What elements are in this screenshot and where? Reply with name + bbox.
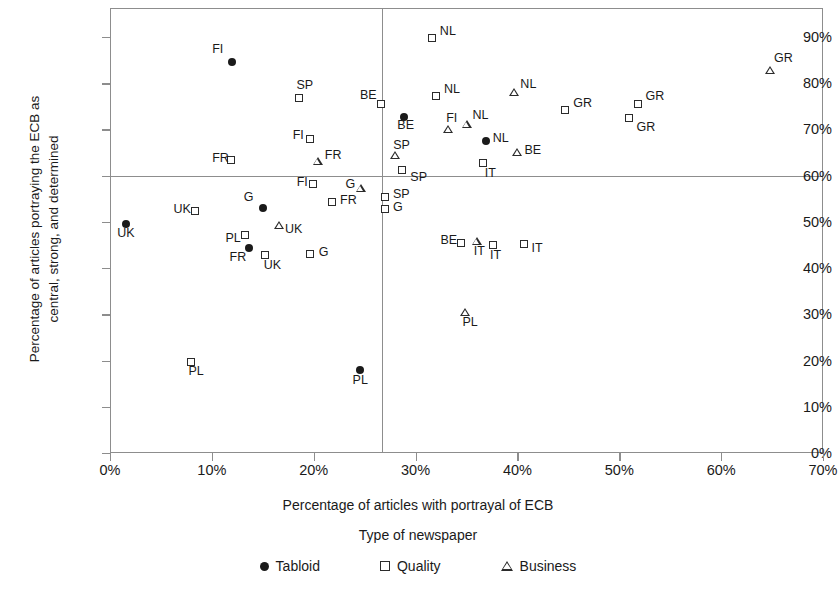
data-point-label: GR bbox=[636, 121, 655, 134]
open-square-marker bbox=[309, 180, 317, 188]
data-point-label: NL bbox=[493, 132, 509, 145]
y-tick-mark bbox=[102, 222, 110, 223]
data-point-label: PL bbox=[353, 374, 368, 387]
open-triangle-marker bbox=[509, 88, 519, 96]
data-point bbox=[310, 139, 314, 143]
y-tick-mark bbox=[102, 361, 110, 362]
data-point bbox=[514, 92, 519, 96]
open-triangle-marker bbox=[512, 148, 522, 156]
open-square-marker bbox=[432, 92, 440, 100]
open-square-marker bbox=[457, 239, 465, 247]
y-tick-label: 70% bbox=[803, 121, 832, 137]
filled-circle-marker bbox=[259, 204, 267, 212]
data-point-label: SP bbox=[393, 139, 410, 152]
data-point-label: G bbox=[346, 178, 356, 191]
data-point bbox=[467, 124, 472, 128]
x-tick-label: 60% bbox=[707, 462, 736, 478]
legend-item-business[interactable]: Business bbox=[501, 558, 577, 574]
y-axis-title: Percentage of articles portraying the EC… bbox=[25, 9, 63, 449]
open-square-marker bbox=[306, 135, 314, 143]
open-square-marker bbox=[520, 240, 528, 248]
open-square-icon bbox=[380, 561, 390, 571]
y-tick-mark bbox=[102, 83, 110, 84]
x-tick-mark bbox=[517, 453, 518, 461]
data-point-label: FI bbox=[297, 176, 308, 189]
legend-item-label: Business bbox=[520, 558, 577, 574]
plot-area: FIBENLGUKFRPLNLSPBENLGRGRGRFIFRITSPFISPG… bbox=[110, 8, 823, 453]
data-point bbox=[770, 71, 775, 75]
x-tick-label: 50% bbox=[605, 462, 634, 478]
legend-item-label: Quality bbox=[397, 558, 441, 574]
data-point-label: BE bbox=[440, 234, 457, 247]
data-point bbox=[249, 248, 253, 252]
open-triangle-marker bbox=[356, 184, 366, 192]
data-point bbox=[395, 156, 400, 160]
data-point-label: BE bbox=[360, 89, 377, 102]
data-point bbox=[310, 254, 314, 258]
open-square-marker bbox=[328, 198, 336, 206]
data-point bbox=[448, 129, 453, 133]
y-tick-mark bbox=[102, 407, 110, 408]
legend-item-quality[interactable]: Quality bbox=[380, 558, 441, 574]
y-tick-label: 10% bbox=[803, 399, 832, 415]
data-point-label: IT bbox=[485, 167, 496, 180]
x-tick-mark bbox=[110, 453, 111, 461]
data-point-label: UK bbox=[285, 223, 302, 236]
y-tick-mark bbox=[102, 37, 110, 38]
data-point-label: IT bbox=[490, 249, 501, 262]
filled-circle-marker bbox=[228, 58, 236, 66]
data-point bbox=[313, 184, 317, 188]
data-point-label: FI bbox=[446, 112, 457, 125]
x-tick-label: 0% bbox=[100, 462, 121, 478]
data-point-label: NL bbox=[473, 109, 489, 122]
x-tick-mark bbox=[619, 453, 620, 461]
data-point bbox=[195, 211, 199, 215]
y-tick-label: 60% bbox=[803, 168, 832, 184]
legend: TabloidQualityBusiness bbox=[0, 558, 836, 574]
data-point bbox=[332, 202, 336, 206]
data-point-label: FR bbox=[230, 251, 247, 264]
data-point bbox=[565, 110, 569, 114]
x-axis-title: Percentage of articles with portrayal of… bbox=[0, 497, 836, 513]
data-point-label: IT bbox=[532, 242, 543, 255]
open-square-marker bbox=[191, 207, 199, 215]
x-tick-label: 20% bbox=[299, 462, 328, 478]
data-point bbox=[245, 235, 249, 239]
x-tick-label: 10% bbox=[197, 462, 226, 478]
horizontal-reference-line bbox=[110, 176, 823, 177]
filled-circle-marker bbox=[482, 137, 490, 145]
data-point-label: BE bbox=[524, 144, 541, 157]
legend-item-label: Tabloid bbox=[276, 558, 320, 574]
data-point bbox=[461, 243, 465, 247]
open-triangle-marker bbox=[313, 157, 323, 165]
y-tick-label: 50% bbox=[803, 214, 832, 230]
y-tick-label: 80% bbox=[803, 75, 832, 91]
data-point-label: G bbox=[244, 191, 254, 204]
x-tick-mark bbox=[823, 453, 824, 461]
open-triangle-marker bbox=[274, 221, 284, 229]
data-point-label: G bbox=[319, 246, 329, 259]
data-point-label: FI bbox=[212, 43, 223, 56]
y-tick-label: 90% bbox=[803, 29, 832, 45]
y-tick-mark bbox=[102, 453, 110, 454]
data-point bbox=[385, 197, 389, 201]
data-point-label: SP bbox=[296, 79, 313, 92]
y-tick-label: 20% bbox=[803, 353, 832, 369]
y-tick-mark bbox=[102, 314, 110, 315]
data-point-label: GR bbox=[573, 97, 592, 110]
open-square-marker bbox=[295, 94, 303, 102]
data-point bbox=[629, 118, 633, 122]
data-point-label: IT bbox=[474, 245, 485, 258]
legend-item-tabloid[interactable]: Tabloid bbox=[260, 558, 320, 574]
y-tick-label: 40% bbox=[803, 260, 832, 276]
data-point bbox=[361, 189, 366, 193]
data-point bbox=[402, 170, 406, 174]
data-point-label: FI bbox=[293, 129, 304, 142]
open-square-marker bbox=[381, 205, 389, 213]
data-point-label: NL bbox=[440, 25, 456, 38]
data-point-label: NL bbox=[444, 83, 460, 96]
filled-circle-icon bbox=[260, 562, 269, 571]
data-point-label: BE bbox=[397, 119, 414, 132]
data-point-label: PL bbox=[188, 365, 203, 378]
